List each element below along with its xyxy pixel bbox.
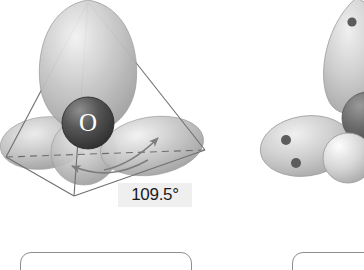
caption-box-left-text: [21, 253, 191, 259]
caption-box-left: [20, 252, 192, 270]
cropped-orbital-svg: [240, 0, 364, 196]
bond-angle-label: 109.5°: [118, 183, 192, 207]
lone-pair-dot: [347, 17, 356, 26]
lone-pair-dot: [291, 158, 301, 168]
oxygen-atom-sphere: [62, 97, 114, 149]
right-panel-cropped-model: H: [240, 0, 364, 196]
caption-box-right-text: [293, 253, 364, 259]
caption-box-right: [292, 252, 364, 270]
lone-pair-dot: [281, 135, 291, 145]
figure-root: O: [0, 0, 364, 270]
